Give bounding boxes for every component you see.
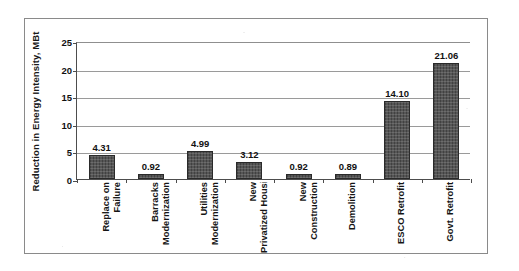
bar[interactable] — [433, 63, 459, 179]
x-axis-category-label: Govt. Retrofit — [408, 182, 470, 253]
bar-slot: 0.89 — [323, 43, 372, 179]
y-axis-tick-label: 10 — [61, 119, 72, 130]
x-axis-category-label-text: ESCO Retrofit — [396, 182, 407, 253]
y-axis-title-text: Reduction in Energy Intensity, MBt — [31, 31, 42, 191]
y-axis-title: Reduction in Energy Intensity, MBt — [28, 18, 44, 204]
x-axis-category-labels: Replace onFailureBarracksModernizationUt… — [76, 182, 470, 253]
y-axis-tick-label: 0 — [67, 175, 72, 186]
bar[interactable] — [187, 151, 213, 179]
bar[interactable] — [286, 174, 312, 179]
bar-value-label: 0.89 — [339, 161, 358, 172]
bar-value-label: 0.92 — [142, 161, 161, 172]
bars-layer: 4.310.924.993.120.920.8914.1021.06 — [77, 43, 470, 179]
y-axis-tick-label: 25 — [61, 37, 72, 48]
bar-slot: 3.12 — [225, 43, 274, 179]
y-axis-tick-labels: 0510152025 — [48, 36, 72, 186]
bar-slot: 0.92 — [126, 43, 175, 179]
bar-value-label: 3.12 — [240, 149, 259, 160]
bar-slot: 4.31 — [77, 43, 126, 179]
bar[interactable] — [236, 162, 262, 179]
bar-value-label: 21.06 — [434, 50, 458, 61]
bar-value-label: 4.31 — [92, 142, 111, 153]
bar-slot: 0.92 — [274, 43, 323, 179]
bar[interactable] — [384, 101, 410, 179]
bar-value-label: 0.92 — [289, 161, 308, 172]
y-axis-tick-label: 15 — [61, 92, 72, 103]
bar[interactable] — [335, 174, 361, 179]
bar-value-label: 4.99 — [191, 138, 210, 149]
bar[interactable] — [89, 155, 115, 179]
bar[interactable] — [138, 174, 164, 179]
bar-slot: 4.99 — [176, 43, 225, 179]
y-axis-tick-label: 5 — [67, 147, 72, 158]
x-axis-category-label-text: Govt. Retrofit — [445, 182, 456, 253]
x-axis-category-label-text: Demolition — [347, 182, 358, 253]
plot-area: 4.310.924.993.120.920.8914.1021.06 — [76, 42, 470, 180]
y-axis-tick-label: 20 — [61, 64, 72, 75]
x-axis-tick-mark — [471, 179, 472, 183]
bar-slot: 21.06 — [422, 43, 471, 179]
bar-value-label: 14.10 — [385, 88, 409, 99]
bar-slot: 14.10 — [373, 43, 422, 179]
